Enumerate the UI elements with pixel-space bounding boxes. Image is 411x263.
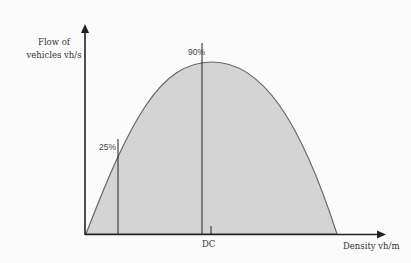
flow-density-chart: Flow of vehicles vh/s 90% 25% DC Density… — [0, 0, 411, 263]
y-axis-label-line2: vehicles vh/s — [25, 50, 81, 60]
annotation-25: 25% — [99, 142, 116, 152]
y-axis-label-line1: Flow of — [38, 37, 71, 47]
x-tick-dc: DC — [202, 239, 215, 249]
y-axis-arrow-icon — [81, 24, 89, 33]
annotation-90: 90% — [188, 47, 205, 57]
x-axis-label: Density vh/m — [343, 241, 400, 251]
flow-density-curve — [86, 62, 337, 234]
x-axis-arrow-icon — [377, 231, 386, 239]
